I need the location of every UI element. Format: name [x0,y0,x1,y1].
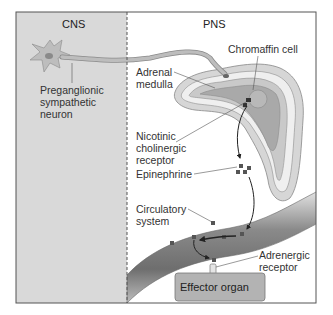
chromaffin-cell [249,90,267,108]
pns-label: PNS [203,18,226,30]
effector-organ-label: Effector organ [180,281,249,293]
epinephrine-label: Epinephrine [136,168,192,180]
adrenal-medulla-label: Adrenal medulla [136,66,173,90]
nicotinic-receptor-label: Nicotinic cholinergic receptor [136,130,186,166]
preganglionic-neuron-label: Preganglionic sympathetic neuron [40,84,104,120]
adrenergic-receptor-label: Adrenergic receptor [259,249,310,273]
adrenergic-receptor-marker [210,264,216,274]
nicotinic-receptor-marker [246,98,251,102]
cns-label: CNS [62,18,85,30]
circulatory-system-label: Circulatory system [136,203,186,227]
chromaffin-cell-label: Chromaffin cell [228,43,298,55]
adrenal-medulla-diagram: CNS PNS Preganglionic sympathetic neuron… [0,0,333,315]
